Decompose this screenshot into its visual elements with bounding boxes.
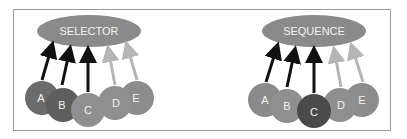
node-d-label: D (337, 99, 345, 111)
arrow-d (335, 54, 341, 87)
arrow-b (62, 53, 69, 85)
node-a-label: A (37, 92, 45, 104)
node-c-label: C (84, 104, 92, 116)
arrow-b (287, 54, 294, 87)
selector-diagram: SELECTOR A B C D E (25, 15, 154, 127)
node-c-label: C (310, 106, 318, 118)
arrow-a (266, 50, 276, 82)
node-b-label: B (58, 99, 65, 111)
node-e-label: E (358, 94, 365, 106)
sequence-diagram: SEQUENCE A B C D E (248, 15, 379, 128)
node-b-label: B (283, 100, 290, 112)
arrow-e (128, 49, 137, 80)
sequence-title: SEQUENCE (283, 25, 345, 37)
diagram-canvas: SELECTOR A B C D E SEQUENCE A B C D (0, 0, 407, 139)
selector-title: SELECTOR (59, 25, 118, 37)
arrow-e (353, 50, 363, 82)
node-a-label: A (261, 94, 269, 106)
node-e-label: E (132, 92, 139, 104)
node-d-label: D (112, 97, 120, 109)
arrow-d (109, 53, 115, 85)
arrow-a (42, 49, 51, 80)
